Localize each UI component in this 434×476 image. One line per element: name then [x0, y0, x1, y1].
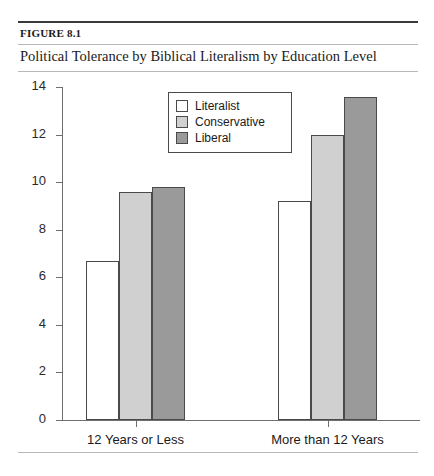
bar	[119, 192, 152, 420]
y-axis-tick-mark	[56, 277, 62, 278]
x-axis-tick-mark	[328, 420, 329, 427]
y-axis-tick-label: 4	[0, 316, 46, 331]
y-axis-tick-label: 14	[0, 78, 46, 93]
y-axis-tick-mark	[56, 372, 62, 373]
y-axis-tick-label: 0	[0, 411, 46, 426]
bar	[86, 261, 119, 420]
x-axis-line	[62, 420, 420, 421]
legend-item: Literalist	[176, 98, 284, 114]
bar	[311, 135, 344, 420]
legend-swatch-icon	[176, 132, 188, 144]
y-axis-tick-mark	[56, 135, 62, 136]
y-axis-tick-mark	[56, 325, 62, 326]
x-axis-tick-mark	[136, 420, 137, 427]
y-axis-tick-mark	[56, 230, 62, 231]
legend-item-label: Liberal	[195, 131, 231, 145]
footer-rule	[18, 452, 418, 453]
legend-swatch-icon	[176, 100, 188, 112]
y-axis-tick-label: 8	[0, 221, 46, 236]
legend-item: Conservative	[176, 114, 284, 130]
bar-chart: 0246810121412 Years or LessMore than 12 …	[0, 0, 434, 476]
y-axis-tick-label: 12	[0, 126, 46, 141]
y-axis-tick-mark	[56, 182, 62, 183]
y-axis-line	[62, 87, 63, 421]
x-axis-tick-label: More than 12 Years	[248, 432, 408, 447]
legend-item: Liberal	[176, 130, 284, 146]
bar	[152, 187, 185, 420]
y-axis-tick-mark	[56, 420, 62, 421]
legend-swatch-icon	[176, 116, 188, 128]
x-axis-tick-label: 12 Years or Less	[56, 432, 216, 447]
bar	[278, 201, 311, 420]
y-axis-tick-mark	[56, 87, 62, 88]
chart-legend: LiteralistConservativeLiberal	[168, 92, 292, 153]
y-axis-tick-label: 2	[0, 363, 46, 378]
y-axis-tick-label: 10	[0, 173, 46, 188]
y-axis-tick-label: 6	[0, 268, 46, 283]
legend-item-label: Literalist	[195, 99, 240, 113]
legend-item-label: Conservative	[195, 115, 265, 129]
bar	[344, 97, 377, 420]
